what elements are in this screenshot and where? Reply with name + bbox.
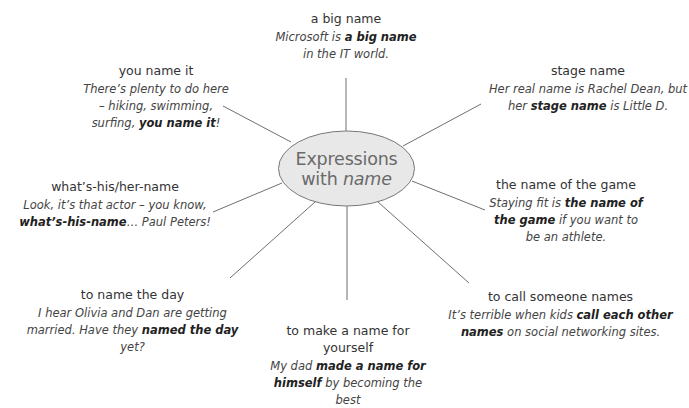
connector-call-names xyxy=(378,202,469,283)
center-title-keyword: name xyxy=(343,169,392,189)
node-the-name-of-the-game: the name of the game Staying fit is the … xyxy=(488,176,644,246)
center-topic: Expressions with name xyxy=(278,131,415,206)
center-title-line1: Expressions xyxy=(296,149,398,169)
node-stage-name: stage name Her real name is Rachel Dean,… xyxy=(488,62,688,115)
node-a-big-name: a big name Microsoft is a big name in th… xyxy=(270,10,422,63)
node-example: Staying fit is the name of the game if y… xyxy=(488,195,644,246)
node-to-make-a-name-for-yourself: to make a name for yourself My dad made … xyxy=(262,322,434,408)
node-example: It’s terrible when kids call each other … xyxy=(448,307,673,341)
center-title-line2: with name xyxy=(301,169,392,189)
node-example: Microsoft is a big name in the IT world. xyxy=(270,29,422,63)
connector-name-the-day xyxy=(230,202,315,278)
node-title: a big name xyxy=(270,10,422,27)
node-example: There’s plenty to do here – hiking, swim… xyxy=(80,81,232,132)
connector-name-of-the-game xyxy=(412,181,485,210)
node-title: to name the day xyxy=(25,286,240,303)
node-whats-his-her-name: what’s-his/her-name Look, it’s that acto… xyxy=(18,178,212,231)
node-example: I hear Olivia and Dan are getting marrie… xyxy=(25,305,240,356)
node-title: you name it xyxy=(80,62,232,79)
node-example: Her real name is Rachel Dean, but her st… xyxy=(488,81,688,115)
node-title: to make a name for yourself xyxy=(262,322,434,356)
node-title: the name of the game xyxy=(488,176,644,193)
node-you-name-it: you name it There’s plenty to do here – … xyxy=(80,62,232,132)
node-to-name-the-day: to name the day I hear Olivia and Dan ar… xyxy=(25,286,240,356)
node-title: stage name xyxy=(488,62,688,79)
connector-whats-his-name xyxy=(213,183,282,212)
node-to-call-someone-names: to call someone names It’s terrible when… xyxy=(448,288,673,341)
node-example: Look, it’s that actor – you know, what’s… xyxy=(18,197,212,231)
node-example: My dad made a name for himself by becomi… xyxy=(262,358,434,408)
node-title: what’s-his/her-name xyxy=(18,178,212,195)
node-title: to call someone names xyxy=(448,288,673,305)
